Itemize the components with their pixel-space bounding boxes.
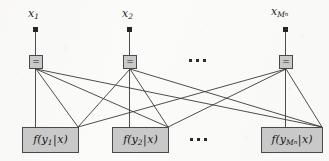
factor-box-fMn: f(yMn|x): [261, 127, 323, 153]
variable-label-xMn: xMn: [271, 6, 288, 19]
equality-node-3: =: [279, 55, 293, 69]
variable-sub-x1: 1: [34, 12, 39, 21]
equality-symbol-2: =: [126, 58, 134, 67]
equality-symbol-3: =: [282, 58, 290, 67]
edge-eq3-f1: [78, 69, 286, 127]
ellipsis-dot: [190, 138, 193, 141]
variable-label-x2: x2: [122, 8, 133, 21]
edge-eq3-fMn-b: [286, 69, 322, 127]
edge-eq1-fMn: [36, 69, 322, 127]
factor-box-f1: f(y1|x): [22, 127, 79, 153]
ellipsis-dot: [197, 138, 200, 141]
top-ellipsis: [189, 59, 206, 62]
factor-expression-f2: f(y2|x): [123, 134, 158, 147]
variable-subsub-xMn: n: [285, 11, 289, 17]
edge-eq1-f1-b: [36, 69, 78, 127]
ellipsis-dot: [196, 59, 199, 62]
factor-close-f1: ): [64, 133, 68, 146]
ellipsis-dot: [189, 59, 192, 62]
variable-sub-xMn: M: [277, 10, 285, 19]
edge-eq1-f2: [36, 69, 168, 127]
factor-expression-f1: f(y1|x): [33, 134, 68, 147]
factor-close-f2: ): [154, 133, 158, 146]
factor-expression-fMn: f(yMn|x): [271, 134, 312, 147]
ellipsis-dot: [204, 138, 207, 141]
equality-symbol-1: =: [32, 58, 40, 67]
factor-close-fMn: ): [308, 133, 312, 146]
variable-label-x1: x1: [28, 8, 39, 21]
factor-sub-f1: 1: [48, 138, 53, 147]
equality-node-1: =: [29, 55, 43, 69]
variable-sub-x2: 2: [128, 12, 133, 21]
factor-box-f2: f(y2|x): [112, 127, 169, 153]
bottom-ellipsis: [190, 138, 207, 141]
equality-node-2: =: [123, 55, 137, 69]
factor-graph-figure: x1 x2 xMn = = = f(y1|x) f(y2|x) f(yMn|x): [0, 0, 329, 161]
ellipsis-dot: [203, 59, 206, 62]
factor-sub-fMn: M: [286, 138, 294, 147]
edge-eq3-f2: [168, 69, 286, 127]
terminal-square-x2: [127, 27, 132, 32]
terminal-square-x1: [33, 27, 38, 32]
terminal-square-xMn: [283, 27, 288, 32]
edge-eq2-f1: [78, 69, 130, 127]
factor-sub-f2: 2: [138, 138, 143, 147]
